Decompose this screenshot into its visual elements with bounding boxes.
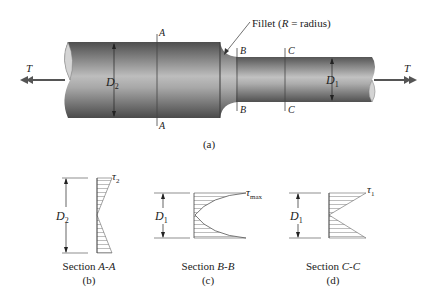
linear-stress-profile: [329, 193, 366, 238]
linear-stress-profile: [97, 178, 112, 253]
svg-text:τ2: τ2: [112, 170, 120, 185]
svg-text:Fillet (R = radius): Fillet (R = radius): [252, 17, 331, 30]
svg-text:(b): (b): [83, 274, 96, 287]
torque-arrow-left: T: [20, 62, 65, 84]
shaft-large-segment: [64, 42, 220, 118]
torque-label-right: T: [404, 62, 411, 74]
svg-text:Section B-B: Section B-B: [182, 260, 235, 272]
caption-a: (a): [203, 138, 216, 151]
torque-arrow-right: T: [374, 62, 417, 84]
torque-label-left: T: [26, 62, 33, 74]
shaft-fillet: [220, 42, 238, 118]
section-a-a-stress-distribution: D2 τ2 Section A-A (b): [55, 170, 120, 287]
section-c-c-stress-distribution: D1 τ1 Section C-C (d): [289, 183, 375, 287]
svg-text:Section A-A: Section A-A: [63, 260, 116, 272]
svg-text:B: B: [240, 104, 246, 115]
svg-text:A: A: [158, 120, 166, 131]
svg-text:Section C-C: Section C-C: [306, 260, 361, 272]
section-b-b-stress-distribution: D1 τmax Section B-B (c): [154, 186, 262, 287]
svg-text:B: B: [240, 45, 246, 56]
svg-text:(c): (c): [202, 274, 215, 287]
svg-text:τmax: τmax: [246, 186, 262, 201]
svg-text:(d): (d): [327, 274, 340, 287]
shaft-small-segment: [236, 57, 375, 102]
stepped-shaft-diagram: T T A A B B C C D2 D1 Fillet (R: [0, 0, 435, 295]
svg-text:τ1: τ1: [367, 183, 375, 198]
svg-text:C: C: [288, 45, 295, 56]
svg-text:A: A: [158, 27, 166, 38]
svg-text:C: C: [288, 104, 295, 115]
